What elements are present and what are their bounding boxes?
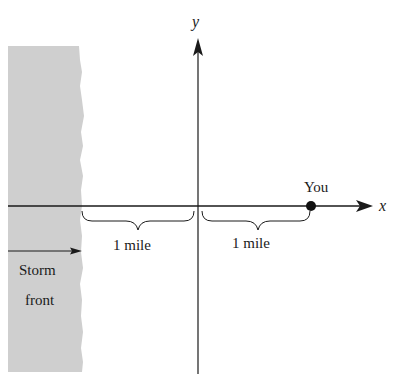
left-distance-label: 1 mile [113,238,151,253]
right-distance-label: 1 mile [232,236,270,251]
right-distance-brace [202,211,310,230]
storm-front-region [8,46,84,372]
you-label: You [304,180,328,195]
storm-front-label-line2: front [25,293,54,308]
storm-front-label-line1: Storm [19,263,56,278]
x-axis-label: x [379,198,386,214]
left-distance-brace [82,211,194,230]
y-axis-label: y [192,14,199,30]
you-point [306,201,316,211]
diagram-canvas [0,0,400,388]
